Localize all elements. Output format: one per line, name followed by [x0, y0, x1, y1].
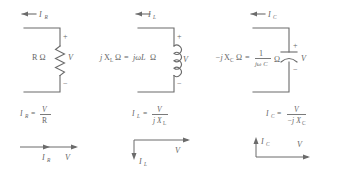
impedance-equals: =	[124, 53, 129, 62]
voltage-label: V	[183, 55, 189, 64]
polarity-minus: −	[177, 79, 182, 88]
phasor-current-sub: L	[143, 161, 147, 167]
polarity-plus: +	[177, 32, 182, 41]
phasor-voltage-label: V	[297, 140, 303, 149]
impedance-rhs-numerator: 1	[259, 49, 263, 58]
equation-equals: =	[143, 109, 147, 118]
impedance-equals: =	[245, 53, 250, 62]
impedance-main-sub: C	[230, 57, 234, 63]
equation-lhs-sub: C	[271, 113, 275, 119]
wire-top	[138, 28, 174, 46]
impedance-lead: −j	[215, 53, 224, 62]
equation-lhs-sub: L	[136, 113, 140, 119]
panel-inductor: j X L Ω = jωL Ω I L V + − I L = V j X L	[112, 0, 224, 174]
equation-lhs: I	[19, 109, 23, 118]
polarity-minus: −	[293, 65, 298, 74]
impedance-rhs: jωL	[132, 53, 146, 62]
equation-numerator: V	[42, 105, 48, 114]
equation-denominator-sub: C	[302, 120, 306, 126]
phasor-current-label: I	[138, 157, 143, 166]
panel-resistor: I R R Ω V + − I R = V R I R V	[2, 0, 114, 174]
wire-top	[24, 28, 60, 46]
phasor-current-head	[254, 137, 259, 144]
equation-denominator: j X	[152, 116, 162, 125]
current-arrow-head	[22, 12, 28, 17]
resistor-zigzag	[56, 46, 65, 76]
phasor-current-head	[43, 145, 50, 150]
equation-denominator-sub: L	[163, 120, 166, 126]
voltage-label: V	[301, 54, 307, 63]
phasor-current-sub: C	[266, 141, 270, 147]
phasor-voltage-label: V	[175, 146, 181, 155]
current-label: I	[267, 10, 272, 19]
phasor-current-label: I	[260, 137, 265, 146]
current-label: I	[38, 10, 43, 19]
equation-lhs: I	[265, 109, 269, 118]
equation-numerator: V	[157, 105, 163, 114]
impedance-label: R Ω	[32, 53, 46, 62]
phasor-voltage-head	[71, 145, 78, 150]
equation-equals: =	[31, 109, 35, 118]
phasor-voltage-head	[303, 155, 310, 160]
current-label-sub: L	[152, 14, 156, 20]
equation-denominator: −j X	[287, 116, 301, 125]
polarity-minus: −	[63, 79, 68, 88]
inductor-coil	[174, 45, 181, 76]
current-label-sub: C	[273, 14, 277, 20]
current-arrow-head	[251, 12, 257, 17]
figure-canvas: I R R Ω V + − I R = V R I R V	[0, 0, 337, 174]
panel-capacitor: −j X C Ω = 1 jω C Ω I C V + − I C = V −j…	[224, 0, 336, 174]
impedance-rhs-unit: Ω	[274, 55, 280, 64]
equation-numerator: V	[294, 105, 300, 114]
equation-lhs-sub: R	[24, 113, 29, 119]
phasor-voltage-head	[183, 138, 190, 143]
phasor-current-head	[132, 153, 137, 160]
impedance-unit: Ω	[115, 53, 121, 62]
voltage-label: V	[68, 53, 74, 62]
phasor-voltage-label: V	[65, 153, 71, 162]
equation-lhs: I	[131, 109, 135, 118]
current-label: I	[147, 10, 152, 19]
wire-bottom	[24, 76, 60, 93]
current-arrow-head	[136, 12, 142, 17]
polarity-plus: +	[63, 32, 68, 41]
equation-equals: =	[277, 109, 281, 118]
impedance-main-sub: L	[110, 57, 113, 63]
phasor-current-label: I	[41, 153, 46, 162]
phasor-current-sub: R	[46, 157, 51, 163]
polarity-plus: +	[293, 41, 298, 50]
impedance-rhs-denominator: jω C	[254, 60, 268, 67]
impedance-unit: Ω	[236, 53, 242, 62]
current-label-sub: R	[44, 14, 49, 20]
impedance-rhs-unit: Ω	[150, 53, 156, 62]
wire-bottom	[138, 76, 174, 92]
equation-denominator: R	[42, 116, 48, 125]
